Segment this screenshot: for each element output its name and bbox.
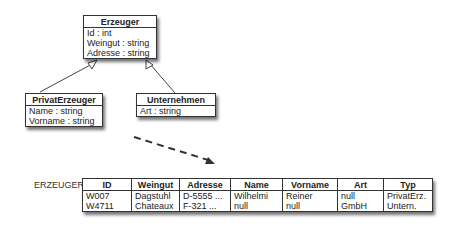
class-attribute: Adresse : string	[84, 48, 156, 58]
column-header: Vorname	[283, 179, 338, 191]
class-attribute: Name : string	[26, 106, 102, 116]
class-erzeuger: Erzeuger Id : int Weingut : string Adres…	[83, 15, 157, 59]
cell: PrivatErz.	[384, 191, 433, 202]
class-attribute: Weingut : string	[84, 38, 156, 48]
class-name: Erzeuger	[84, 16, 156, 28]
table-row: W4711 Chateaux F-321 ... null null GmbH …	[83, 201, 433, 212]
cell: GmbH	[338, 201, 384, 212]
relation-table: ID Weingut Adresse Name Vorname Art Typ …	[82, 178, 433, 212]
cell: null	[283, 201, 338, 212]
mapping-arrow-icon	[205, 157, 215, 164]
class-name: Unternehmen	[137, 94, 215, 106]
cell: W4711	[83, 201, 132, 212]
cell: Untern.	[384, 201, 433, 212]
column-header: Name	[231, 179, 283, 191]
relation-label: ERZEUGER	[34, 180, 84, 190]
class-attribute: Vorname : string	[26, 116, 102, 126]
column-header: Weingut	[132, 179, 180, 191]
cell: null	[231, 201, 283, 212]
table-row: W007 Dagstuhl D-5555 ... Wilhelmi Reiner…	[83, 191, 433, 202]
inheritance-arrow-icon	[88, 60, 97, 69]
cell: null	[338, 191, 384, 202]
class-name: PrivatErzeuger	[26, 94, 102, 106]
column-header: ID	[83, 179, 132, 191]
table-header-row: ID Weingut Adresse Name Vorname Art Typ	[83, 179, 433, 191]
cell: D-5555 ...	[180, 191, 231, 202]
class-unternehmen: Unternehmen Art : string	[136, 93, 216, 117]
class-privaterzeuger: PrivatErzeuger Name : string Vorname : s…	[25, 93, 103, 127]
cell: Dagstuhl	[132, 191, 180, 202]
cell: Chateaux	[132, 201, 180, 212]
cell: F-321 ...	[180, 201, 231, 212]
cell: W007	[83, 191, 132, 202]
column-header: Adresse	[180, 179, 231, 191]
column-header: Art	[338, 179, 384, 191]
column-header: Typ	[384, 179, 433, 191]
class-attribute: Id : int	[84, 28, 156, 38]
cell: Wilhelmi	[231, 191, 283, 202]
inheritance-arrow-icon	[146, 60, 153, 69]
cell: Reiner	[283, 191, 338, 202]
class-attribute: Art : string	[137, 106, 215, 116]
